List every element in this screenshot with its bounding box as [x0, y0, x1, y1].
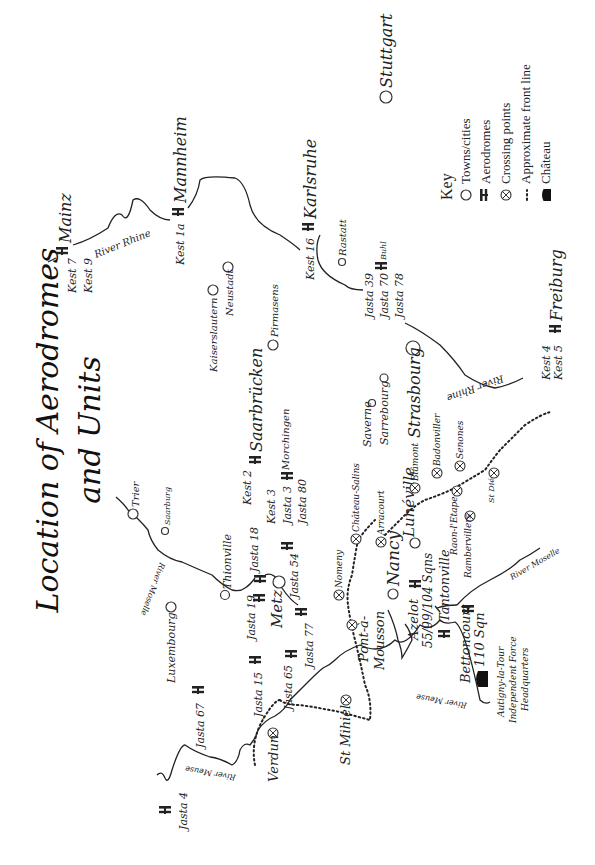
label-nancy: Nancy [383, 531, 403, 587]
town-luxembourg [166, 602, 176, 612]
label-mannheim: Mannheim [171, 116, 190, 204]
label-azelot: Azelot [406, 598, 421, 641]
label-jasta-18: Jasta 18 [248, 527, 261, 574]
crossing-arracourt [376, 537, 386, 547]
crossing-st-die [489, 468, 499, 478]
label-saarburg: Saarburg [163, 487, 172, 525]
label-mainz: Mainz [56, 193, 75, 244]
label-saarbrucken: Saarbrücken [247, 348, 266, 452]
label-chateau-line2: Independent Force [508, 636, 518, 724]
label-metz: Metz [268, 590, 286, 629]
label-tantonville: Tantonville [437, 549, 452, 622]
label-jasta-80: Jasta 80 [296, 479, 309, 526]
label-kest-3: Kest 3 [265, 489, 278, 525]
aerodrome-jasta-54 [281, 542, 293, 550]
label-senones: Senones [455, 420, 465, 459]
label-jasta-4: Jasta 4 [177, 792, 190, 832]
label-saverne: Saverne [361, 401, 374, 447]
label-river-rhine-south: River Rhine [445, 373, 506, 404]
aerodrome-saarbrucken [249, 456, 261, 464]
town-sarrebourg [380, 374, 388, 382]
label-morchingen: Morchingen [280, 409, 291, 471]
crossing-blamont [410, 483, 420, 493]
label-jasta-65: Jasta 65 [282, 665, 295, 712]
town-rastatt [339, 259, 346, 266]
title-line-1: Location of Aerodromes [30, 248, 65, 614]
label-jasta-54: Jasta 54 [288, 553, 301, 600]
label-kest-9: Kest 9 [82, 258, 95, 294]
label-luxembourg: Luxembourg [165, 612, 178, 684]
crossing-st-mihiel [341, 695, 351, 705]
aerodrome-karlsruhe [302, 223, 314, 231]
town-trier [128, 509, 138, 519]
key-aerodrome-icon [480, 189, 488, 201]
town-luneville [410, 538, 420, 548]
label-jasta-15: Jasta 15 [252, 672, 265, 719]
key-heading: Key [438, 173, 456, 200]
label-kest-7: Kest 7 [66, 258, 79, 294]
aerodrome-map: Location of Aerodromes and Units Key Tow… [0, 0, 595, 865]
crossing-senones [455, 461, 465, 471]
label-river-meuse-south: River Meuse [415, 692, 468, 710]
label-jasta-78: Jasta 78 [393, 273, 406, 320]
label-kest-2: Kest 2 [241, 470, 254, 506]
label-pont-a-mousson-2: Mousson [372, 611, 387, 671]
aerodrome-jasta-77 [295, 608, 307, 616]
label-nomeny: Nomeny [334, 549, 344, 589]
map-key: Key Towns/cities Aerodromes Crossing poi… [438, 64, 553, 201]
crossing-nomeny [334, 590, 344, 600]
label-jasta-39: Jasta 39 [363, 273, 376, 320]
label-bettoncourt: Bettoncourt [458, 603, 473, 684]
label-jasta-3: Jasta 3 [281, 486, 294, 526]
label-chateau-line3: Headquarters [520, 647, 530, 712]
key-label-front: Approximate front line [518, 64, 533, 184]
aerodrome-jasta-67 [192, 686, 204, 694]
label-trier: Trier [130, 480, 141, 507]
label-bettoncourt-units: 110 Sqn [472, 612, 487, 667]
aerodrome-azelot [409, 580, 421, 588]
label-kest-1a: Kest 1a [174, 223, 187, 266]
label-freiburg: Freiburg [547, 249, 566, 322]
aerodrome-mannheim [172, 208, 184, 216]
crossing-chateau-salins [351, 534, 361, 544]
label-kest-16: Kest 16 [304, 238, 317, 281]
aerodrome-jasta-65 [285, 650, 297, 658]
label-rastatt: Rastatt [337, 218, 348, 257]
town-pirmasens [268, 340, 278, 350]
label-buhl: Buhl [379, 241, 388, 261]
key-label-chateau: Château [538, 141, 553, 184]
label-sarrebourg: Sarrebourg [378, 381, 391, 445]
label-jasta-67: Jasta 67 [194, 703, 207, 750]
aerodrome-jasta-15 [249, 656, 261, 664]
label-raon-l-etape: Raon-l'Etape [449, 496, 459, 556]
label-verdun: Verdun [266, 735, 281, 782]
town-stuttgart [380, 91, 392, 103]
label-stuttgart: Stuttgart [377, 13, 396, 88]
key-label-crossing: Crossing points [498, 103, 513, 184]
label-kaiserslautern: Kaiserslautern [208, 298, 219, 373]
label-jasta-70: Jasta 70 [378, 273, 391, 320]
town-saarburg [162, 528, 169, 535]
key-crossing-icon [501, 190, 511, 200]
label-arracourt: Arracourt [376, 490, 386, 536]
label-karlsruhe: Karlsruhe [301, 139, 320, 220]
label-jasta-77: Jasta 77 [303, 623, 316, 670]
label-river-meuse-north: River Meuse [184, 764, 237, 782]
label-rambervillers: Rambervillers [463, 513, 473, 579]
aerodrome-buhl [375, 262, 387, 270]
town-thionville [221, 591, 230, 600]
aerodrome-morchingen [281, 472, 293, 480]
chateau-icon [476, 671, 488, 687]
aerodrome-tantonville [438, 630, 450, 638]
crossing-raon-l-etape [452, 486, 462, 496]
label-river-moselle-north: River Moselle [139, 560, 167, 617]
aerodrome-freiburg [549, 325, 561, 333]
key-label-aerodromes: Aerodromes [478, 120, 493, 184]
label-pont-a-mousson-1: Pont-à- [356, 616, 371, 663]
aerodrome-jasta-18 [254, 575, 266, 583]
label-chateau-name: Autigny-la-Tour [496, 646, 506, 718]
label-blamont: Blâmont [410, 442, 420, 482]
label-strasbourg: Strasbourg [405, 347, 424, 438]
label-chateau-salins: Château-Salins [351, 463, 361, 532]
label-azelot-units: 55/99/104 Sqns [421, 553, 435, 648]
